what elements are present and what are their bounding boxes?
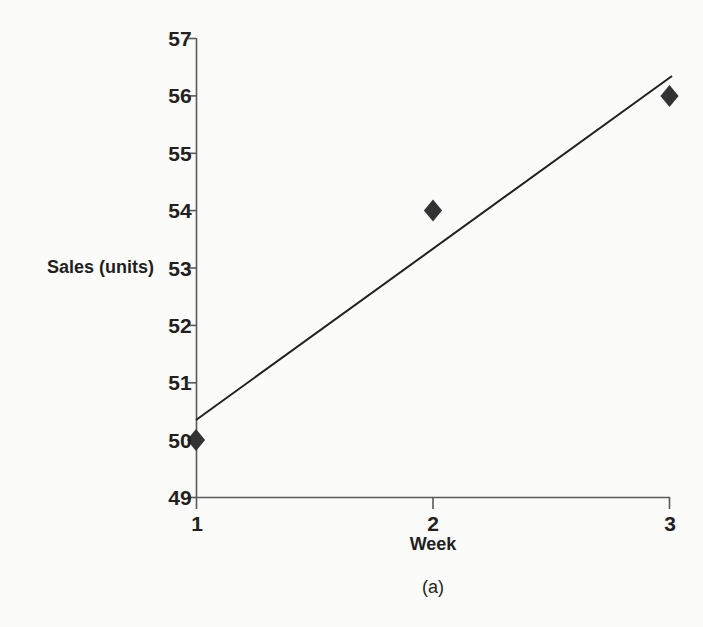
y-axis-title: Sales (units): [30, 258, 154, 278]
x-axis-title: Week: [196, 534, 670, 555]
y-tick-label-52: 52: [148, 315, 192, 336]
data-point-markers: [187, 85, 679, 451]
y-tick-label-49: 49: [148, 487, 192, 508]
x-axis-ticks: [197, 497, 670, 509]
chart-canvas: [0, 0, 703, 627]
y-tick-label-56: 56: [148, 85, 192, 106]
figure-panel-a: 57 56 55 54 53 52 51 50 49 1 2 3 Sales (…: [0, 0, 703, 627]
y-tick-label-55: 55: [148, 143, 192, 164]
data-point-week-3: [660, 85, 678, 107]
y-tick-label-57: 57: [148, 28, 192, 49]
y-tick-label-50: 50: [148, 430, 192, 451]
y-tick-label-53: 53: [148, 258, 192, 279]
y-tick-label-51: 51: [148, 372, 192, 393]
data-point-week-2: [424, 200, 442, 222]
x-tick-label-2: 2: [413, 513, 453, 534]
x-tick-label-3: 3: [650, 513, 690, 534]
figure-caption: (a): [196, 577, 670, 598]
x-tick-label-1: 1: [177, 513, 217, 534]
y-tick-label-54: 54: [148, 200, 192, 221]
trend-line: [196, 76, 672, 420]
